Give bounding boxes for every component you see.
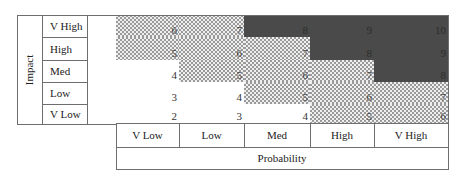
border-line xyxy=(87,15,88,125)
matrix-cell: 10 xyxy=(374,15,448,37)
border-line xyxy=(42,37,87,38)
impact-axis-title: Impact xyxy=(17,15,42,124)
border-line xyxy=(17,15,448,16)
border-line xyxy=(42,104,87,105)
matrix-cell: 3 xyxy=(179,104,244,123)
border-line xyxy=(116,169,449,170)
matrix-cell: 9 xyxy=(310,15,374,37)
border-line xyxy=(116,147,449,148)
matrix-cell: 2 xyxy=(116,104,179,123)
matrix-cell: 3 xyxy=(116,82,179,104)
impact-level-low: Low xyxy=(42,82,87,104)
matrix-cell: 7 xyxy=(374,82,448,104)
probability-level-high: High xyxy=(310,123,374,147)
border-line xyxy=(448,15,449,170)
matrix-cell: 8 xyxy=(374,60,448,82)
matrix-cell: 6 xyxy=(310,82,374,104)
matrix-cell: 9 xyxy=(374,37,448,60)
matrix-cell: 5 xyxy=(310,104,374,123)
impact-level-med: Med xyxy=(42,60,87,82)
border-line xyxy=(179,123,180,147)
matrix-cell: 5 xyxy=(179,60,244,82)
border-line xyxy=(42,60,87,61)
impact-axis-label: Impact xyxy=(24,54,36,85)
matrix-cell: 4 xyxy=(179,82,244,104)
border-line xyxy=(244,123,245,147)
impact-level-v-high: V High xyxy=(42,15,87,37)
border-line xyxy=(42,82,87,83)
probability-level-v-low: V Low xyxy=(116,123,179,147)
impact-level-v-low: V Low xyxy=(42,104,87,124)
matrix-cell: 6 xyxy=(116,15,179,37)
matrix-cell: 4 xyxy=(244,104,310,123)
probability-level-v-high: V High xyxy=(374,123,448,147)
matrix-cell: 6 xyxy=(179,37,244,60)
impact-level-high: High xyxy=(42,37,87,60)
matrix-cell: 7 xyxy=(244,37,310,60)
border-line xyxy=(17,124,117,125)
matrix-cell: 5 xyxy=(116,37,179,60)
probability-level-med: Med xyxy=(244,123,310,147)
probability-axis-title: Probability xyxy=(116,147,448,169)
matrix-cell: 6 xyxy=(244,60,310,82)
matrix-cell: 8 xyxy=(310,37,374,60)
border-line xyxy=(42,15,43,125)
border-line xyxy=(310,123,311,147)
border-line xyxy=(116,123,449,124)
border-line xyxy=(116,123,117,170)
matrix-cell: 8 xyxy=(244,15,310,37)
matrix-cell: 6 xyxy=(374,104,448,123)
probability-level-low: Low xyxy=(179,123,244,147)
matrix-cell: 5 xyxy=(244,82,310,104)
border-line xyxy=(17,15,18,125)
matrix-cell: 7 xyxy=(310,60,374,82)
matrix-cell: 7 xyxy=(179,15,244,37)
border-line xyxy=(374,123,375,147)
matrix-cell: 4 xyxy=(116,60,179,82)
